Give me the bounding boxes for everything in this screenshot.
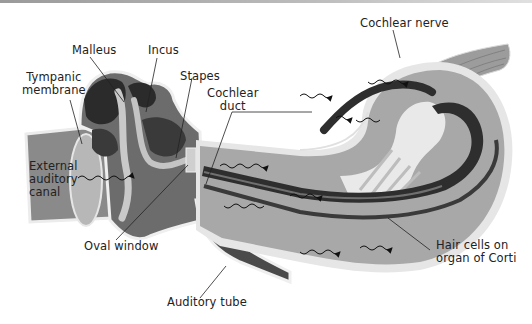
label-external-auditory-canal: External auditory canal <box>29 160 78 199</box>
label-tympanic-membrane: Tympanic membrane <box>22 71 86 97</box>
stapes <box>186 148 196 172</box>
label-hair-cells-organ-of-corti: Hair cells on organ of Corti <box>436 239 517 265</box>
label-auditory-tube: Auditory tube <box>167 296 247 309</box>
label-cochlear-nerve: Cochlear nerve <box>360 17 449 30</box>
label-incus: Incus <box>148 44 179 57</box>
label-malleus: Malleus <box>72 44 116 57</box>
label-stapes: Stapes <box>180 70 220 83</box>
label-oval-window: Oval window <box>84 240 159 253</box>
label-cochlear-duct: Cochlear duct <box>207 87 259 113</box>
